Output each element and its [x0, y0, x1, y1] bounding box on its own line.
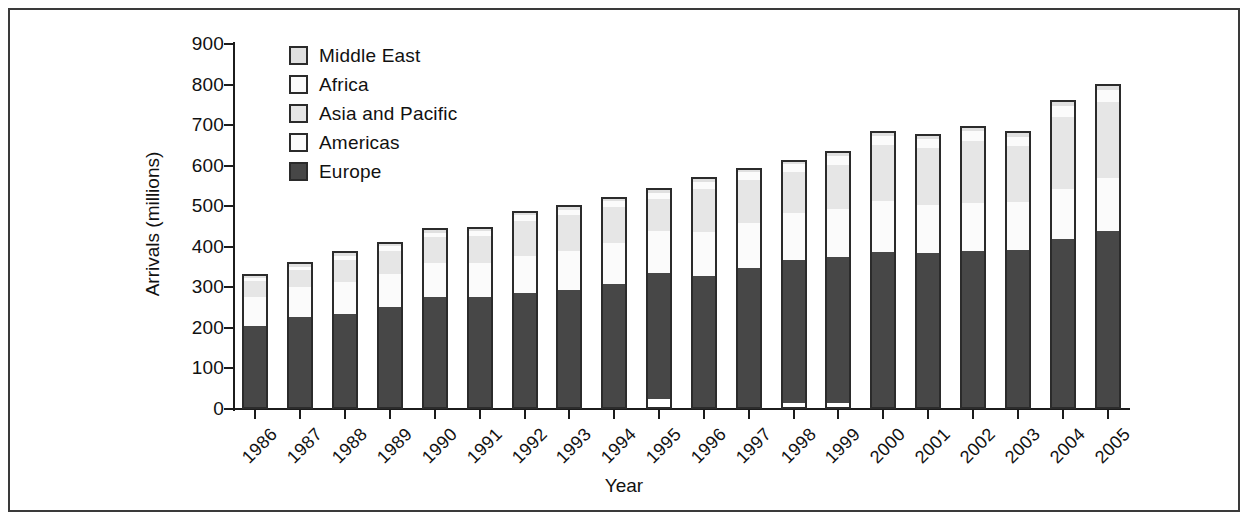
x-tick-label: 2000 [866, 424, 910, 468]
bar-segment-americas [738, 223, 760, 268]
bar-1994 [601, 197, 627, 410]
bar-segment-asia-and-pacific [827, 165, 849, 209]
x-tick-mark [1062, 410, 1064, 419]
y-tick-mark [224, 246, 233, 248]
bar-1987 [287, 262, 313, 409]
x-axis-title: Year [0, 475, 1248, 497]
x-tick-label: 1991 [463, 424, 507, 468]
x-tick-mark [344, 410, 346, 419]
x-tick-label: 1997 [732, 424, 776, 468]
bar-2005 [1095, 84, 1121, 409]
bar-segment-europe [1097, 231, 1119, 407]
bar-segment-europe [917, 253, 939, 407]
bar-segment-americas [962, 203, 984, 251]
bar-segment-europe [558, 290, 580, 407]
x-tick-mark [793, 410, 795, 419]
bar-1992 [512, 211, 538, 409]
bar-segment-americas [1052, 189, 1074, 239]
legend-swatch-icon [289, 162, 308, 181]
x-tick-label: 1992 [507, 424, 551, 468]
bar-2002 [960, 126, 986, 409]
bar-segment-europe [469, 297, 491, 407]
bar-segment-americas [648, 231, 670, 273]
bar-segment-africa [962, 131, 984, 141]
bar-segment-africa [738, 172, 760, 179]
y-tick-label: 300 [192, 276, 224, 298]
bar-segment-europe [783, 260, 805, 404]
bar-segment-americas [693, 232, 715, 276]
bar-segment-asia-and-pacific [558, 215, 580, 251]
y-tick-mark [224, 124, 233, 126]
legend-label: Americas [319, 132, 400, 154]
bar-segment-africa [827, 156, 849, 164]
bar-segment-europe [603, 284, 625, 407]
bar-segment-europe [244, 326, 266, 407]
x-tick-mark [882, 410, 884, 419]
bar-segment-asia-and-pacific [1007, 146, 1029, 202]
bar-segment-europe [827, 257, 849, 404]
x-tick-label: 1998 [776, 424, 820, 468]
bar-1999 [825, 151, 851, 409]
bar-segment-americas [334, 282, 356, 314]
bar-segment-asia-and-pacific [469, 236, 491, 263]
x-tick-label: 2005 [1090, 424, 1134, 468]
bar-segment-africa [1052, 106, 1074, 117]
bar-segment-americas [917, 205, 939, 253]
x-tick-label: 2004 [1046, 424, 1090, 468]
x-tick-mark [389, 410, 391, 419]
x-tick-label: 1996 [687, 424, 731, 468]
bar-segment-asia-and-pacific [962, 141, 984, 204]
y-tick-label: 0 [213, 398, 224, 420]
x-tick-label: 1993 [552, 424, 596, 468]
legend-label: Europe [319, 161, 381, 183]
y-tick-label: 100 [192, 357, 224, 379]
bar-segment-asia-and-pacific [334, 260, 356, 282]
y-tick-mark [224, 367, 233, 369]
bar-1989 [377, 242, 403, 409]
y-tick-label: 800 [192, 74, 224, 96]
legend-item-africa: Africa [289, 70, 457, 99]
x-tick-mark [479, 410, 481, 419]
y-tick-mark [224, 408, 233, 410]
y-tick-mark [224, 327, 233, 329]
x-tick-label: 1999 [821, 424, 865, 468]
bar-segment-europe [289, 317, 311, 407]
x-tick-mark [1107, 410, 1109, 419]
y-tick-label: 200 [192, 317, 224, 339]
bar-segment-africa [917, 139, 939, 148]
x-tick-mark [927, 410, 929, 419]
bar-segment-americas [603, 243, 625, 284]
chart-figure: Arrivals (millions) Year 010020030040050… [0, 0, 1248, 522]
y-tick-label: 500 [192, 195, 224, 217]
bar-segment-asia-and-pacific [648, 199, 670, 231]
x-tick-mark [254, 410, 256, 419]
bar-segment-americas [783, 213, 805, 260]
bar-segment-africa [872, 136, 894, 145]
bar-1990 [422, 228, 448, 409]
bar-segment-europe [648, 273, 670, 399]
x-tick-mark [568, 410, 570, 419]
bar-segment-europe [693, 276, 715, 407]
bar-segment-americas [244, 297, 266, 326]
legend-item-middle-east: Middle East [289, 41, 457, 70]
bar-segment-europe [1052, 239, 1074, 407]
y-tick-mark [224, 165, 233, 167]
x-tick-mark [299, 410, 301, 419]
y-tick-mark [224, 84, 233, 86]
x-tick-label: 1994 [597, 424, 641, 468]
y-tick-label: 700 [192, 114, 224, 136]
legend-label: Africa [319, 74, 369, 96]
bar-1988 [332, 251, 358, 409]
legend-swatch-icon [289, 46, 308, 65]
bar-segment-europe [962, 251, 984, 407]
y-tick-mark [224, 43, 233, 45]
x-tick-mark [613, 410, 615, 419]
bar-segment-asia-and-pacific [738, 180, 760, 223]
x-tick-mark [837, 410, 839, 419]
legend-label: Middle East [319, 45, 420, 67]
bar-segment-europe [334, 314, 356, 407]
x-tick-label: 2001 [911, 424, 955, 468]
bar-segment-africa [783, 164, 805, 172]
x-tick-mark [703, 410, 705, 419]
bar-segment-americas [558, 251, 580, 290]
